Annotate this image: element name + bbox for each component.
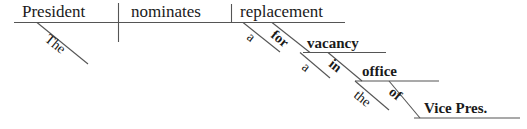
word-object-replacement: replacement [240, 3, 323, 20]
word-subject-president: President [22, 3, 85, 20]
sentence-diagram: President nominates replacement The a fo… [0, 0, 527, 129]
word-object-vice-pres: Vice Pres. [424, 101, 487, 116]
word-verb-nominates: nominates [131, 3, 201, 20]
word-object-office: office [362, 64, 397, 79]
word-object-vacancy: vacancy [307, 36, 359, 51]
